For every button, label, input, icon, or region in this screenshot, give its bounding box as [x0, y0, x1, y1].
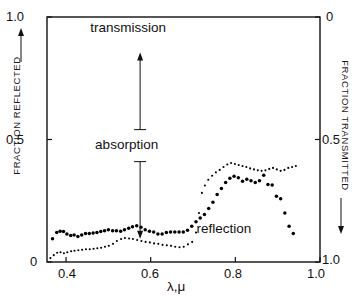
series-label-reflection: reflection	[197, 221, 252, 236]
y-axis-left-title: FRACTION REFLECTED	[11, 16, 22, 216]
axis-ticks	[47, 17, 320, 262]
y-axis-right-title: FRACTION TRANSMITTED	[340, 26, 351, 226]
figure-container: FRACTION REFLECTED FRACTION TRANSMITTED …	[0, 0, 361, 296]
y-right-tick-0: 0	[326, 9, 333, 24]
series-label-transmission: transmission	[90, 20, 166, 35]
x-tick-08: 0.8	[224, 266, 242, 281]
series-transmission-points	[51, 174, 295, 241]
y-left-tick-1: 1.0	[6, 9, 24, 24]
y-left-tick-0: 0	[30, 254, 37, 269]
plot-frame	[47, 17, 320, 262]
chart-canvas	[0, 0, 361, 296]
x-tick-10: 1.0	[307, 266, 325, 281]
x-axis-title: λ,μ	[167, 279, 185, 294]
x-tick-04: 0.4	[58, 266, 76, 281]
y-left-tick-05: 0.5	[6, 132, 24, 147]
y-right-tick-1: 1.0	[322, 252, 340, 267]
series-reflection-points	[49, 162, 297, 259]
y-right-tick-05: 0.5	[322, 132, 340, 147]
axis-direction-arrows	[18, 28, 344, 234]
x-tick-06: 0.6	[141, 266, 159, 281]
annotation-label-absorption: absorption	[93, 137, 160, 152]
